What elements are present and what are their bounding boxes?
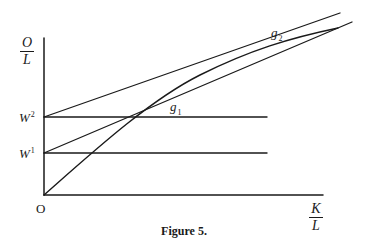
- x-axis-label-numerator: K: [310, 202, 321, 217]
- w2-label: W2: [19, 111, 35, 124]
- y-axis-label-numerator: O: [21, 36, 33, 51]
- figure-5: O L K L O W2 W1 g1 g2 Figure 5.: [0, 0, 368, 247]
- w2-label-superscript: 2: [31, 110, 35, 119]
- w1-label: W1: [19, 147, 35, 160]
- g1-label: g1: [170, 100, 182, 117]
- ray-from-w2: [44, 13, 340, 117]
- origin-label: O: [36, 202, 45, 215]
- g1-label-base: g: [170, 99, 177, 114]
- production-curve: [44, 28, 338, 195]
- figure-caption: Figure 5.: [0, 224, 368, 239]
- w1-label-base: W: [19, 146, 30, 161]
- g2-label: g2: [271, 26, 283, 43]
- y-axis-label-denominator: L: [23, 52, 31, 67]
- y-axis-label: O L: [20, 36, 34, 67]
- g2-label-subscript: 2: [279, 34, 283, 43]
- g1-label-subscript: 1: [178, 108, 182, 117]
- w1-label-superscript: 1: [31, 146, 35, 155]
- ray-from-w1: [44, 22, 352, 153]
- g2-label-base: g: [271, 25, 278, 40]
- w2-label-base: W: [19, 110, 30, 125]
